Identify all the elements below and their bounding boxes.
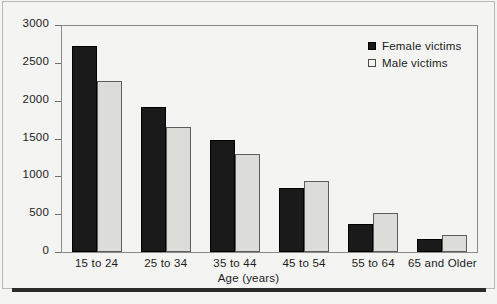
bar-female [141, 107, 166, 252]
bar-male [235, 154, 260, 252]
y-axis-tick-label: 1000 [23, 168, 49, 180]
bar-male [373, 213, 398, 252]
chart-legend: Female victims Male victims [368, 38, 461, 72]
bar-male [166, 127, 191, 252]
y-axis-tick-label: 0 [42, 244, 49, 256]
x-axis-category-label: 15 to 24 [62, 257, 131, 269]
bar-male [442, 235, 467, 252]
bar-female [72, 46, 97, 252]
legend-item-male: Male victims [368, 55, 461, 70]
x-axis-category-label: 65 and Older [408, 257, 477, 269]
bar-female [417, 239, 442, 252]
bar-group [141, 25, 191, 252]
chart-figure: 300025002000150010005000 15 to 2425 to 3… [0, 0, 497, 304]
bar-female [279, 188, 304, 252]
y-axis-tick-label: 2000 [23, 93, 49, 105]
bar-male [304, 181, 329, 252]
bar-group [279, 25, 329, 252]
legend-swatch-male-icon [368, 59, 376, 67]
y-axis-tick-label: 2500 [23, 55, 49, 67]
x-axis-title: Age (years) [0, 272, 497, 284]
y-axis-tick-label: 500 [29, 206, 49, 218]
legend-label-male: Male victims [382, 57, 448, 69]
bar-male [97, 81, 122, 252]
x-axis-category-label: 55 to 64 [339, 257, 408, 269]
bottom-divider-rule [12, 288, 486, 292]
legend-swatch-female-icon [368, 42, 376, 50]
legend-item-female: Female victims [368, 38, 461, 53]
y-axis-tick-label: 1500 [23, 131, 49, 143]
x-axis-category-label: 25 to 34 [131, 257, 200, 269]
bar-group [210, 25, 260, 252]
x-axis-category-label: 45 to 54 [270, 257, 339, 269]
bar-group [72, 25, 122, 252]
bar-female [348, 224, 373, 252]
x-axis-category-label: 35 to 44 [200, 257, 269, 269]
bar-female [210, 140, 235, 252]
legend-label-female: Female victims [382, 40, 461, 52]
y-axis-tick-label: 3000 [23, 17, 49, 29]
